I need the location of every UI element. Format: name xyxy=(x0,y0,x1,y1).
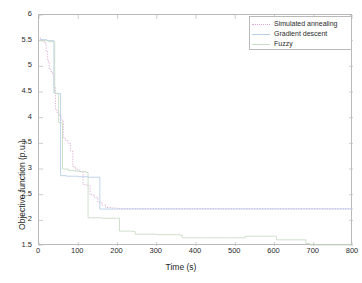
y-axis-label-wrapper: Objective function (p.u.) xyxy=(6,60,20,210)
x-tick-label: 800 xyxy=(335,247,362,255)
x-tick-label: 200 xyxy=(100,247,134,255)
legend-item-simulated-annealing: Simulated annealing xyxy=(252,19,351,29)
legend-swatch-simulated-annealing xyxy=(252,24,270,25)
x-tick-label: 500 xyxy=(217,247,251,255)
x-tick-label: 600 xyxy=(257,247,291,255)
legend-label-simulated-annealing: Simulated annealing xyxy=(274,19,337,29)
legend-label-fuzzy: Fuzzy xyxy=(274,39,293,49)
y-tick-label: 6 xyxy=(2,10,32,18)
x-tick-label: 300 xyxy=(139,247,173,255)
legend-item-gradient-descent: Gradient descent xyxy=(252,29,351,39)
chart-legend: Simulated annealing Gradient descent Fuz… xyxy=(249,16,352,50)
legend-swatch-fuzzy xyxy=(252,44,270,45)
x-tick-label: 100 xyxy=(60,247,94,255)
legend-item-fuzzy: Fuzzy xyxy=(252,39,351,49)
legend-swatch-gradient-descent xyxy=(252,34,270,35)
x-tick-label: 400 xyxy=(178,247,212,255)
y-axis-label: Objective function (p.u.) xyxy=(17,115,27,255)
x-axis-label: Time (s) xyxy=(0,262,362,272)
chart-figure: 1.522.533.544.555.56 0100200300400500600… xyxy=(0,0,362,283)
y-tick-label: 5.5 xyxy=(2,36,32,44)
x-tick-label: 700 xyxy=(296,247,330,255)
legend-label-gradient-descent: Gradient descent xyxy=(274,29,327,39)
